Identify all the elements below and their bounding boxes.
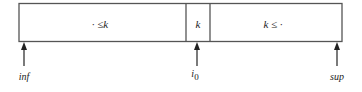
pointer-inf-label: inf <box>19 71 31 82</box>
arrow-sup-icon <box>334 42 340 66</box>
pointer-i0-label: i0 <box>191 68 199 82</box>
array-partition-diagram: · ≤k k k ≤ · inf i0 sup <box>0 0 362 92</box>
segment-less-equal-k: · ≤k <box>92 18 110 30</box>
pointer-sup-label: sup <box>330 71 344 82</box>
segment-greater-equal-k: k ≤ · <box>263 18 282 30</box>
arrow-inf-icon <box>21 42 27 66</box>
array-box <box>19 4 342 42</box>
arrow-i0-icon <box>194 42 200 66</box>
